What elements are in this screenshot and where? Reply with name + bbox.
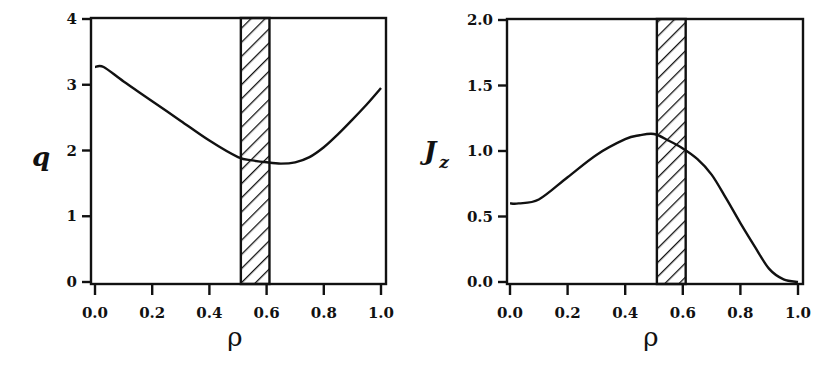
q-profile-panel: 012340.00.20.40.60.81.0ρq bbox=[32, 10, 394, 352]
y-axis-label: Jz bbox=[419, 136, 449, 172]
plot-frame bbox=[507, 19, 803, 284]
x-tick-label: 0.6 bbox=[670, 304, 696, 322]
y-tick-label: 0 bbox=[67, 273, 77, 291]
y-tick-label: 2.0 bbox=[467, 11, 493, 29]
hatched-band bbox=[657, 19, 686, 284]
x-tick-label: 0.0 bbox=[82, 304, 108, 322]
x-tick-label: 0.4 bbox=[612, 304, 638, 322]
profile-curve bbox=[95, 66, 381, 164]
y-axis-label: q bbox=[32, 142, 50, 172]
profile-curve bbox=[510, 134, 798, 282]
x-tick-label: 0.2 bbox=[139, 304, 165, 322]
x-tick-label: 0.0 bbox=[497, 304, 523, 322]
hatched-band bbox=[241, 18, 270, 284]
y-tick-label: 0.5 bbox=[467, 208, 493, 226]
y-tick-label: 1.0 bbox=[467, 142, 493, 160]
y-tick-label: 0.0 bbox=[467, 273, 493, 291]
y-tick-label: 3 bbox=[67, 76, 77, 94]
y-tick-label: 4 bbox=[67, 10, 77, 28]
x-tick-label: 0.8 bbox=[311, 304, 337, 322]
x-tick-label: 1.0 bbox=[785, 304, 811, 322]
x-tick-label: 0.8 bbox=[727, 304, 753, 322]
y-tick-label: 2 bbox=[67, 142, 77, 160]
x-tick-label: 0.2 bbox=[555, 304, 581, 322]
x-axis-label: ρ bbox=[643, 322, 658, 352]
x-tick-label: 0.6 bbox=[254, 304, 280, 322]
x-tick-label: 1.0 bbox=[368, 304, 394, 322]
plot-frame bbox=[91, 18, 386, 284]
x-axis-label: ρ bbox=[227, 322, 242, 352]
figure: 012340.00.20.40.60.81.0ρq 0.00.51.01.52.… bbox=[0, 0, 834, 368]
y-axis-label-subscript: z bbox=[438, 152, 449, 172]
x-tick-label: 0.4 bbox=[196, 304, 222, 322]
y-axis-label-main: q bbox=[32, 142, 50, 172]
jz-profile-panel: 0.00.51.01.52.00.00.20.40.60.81.0ρJz bbox=[419, 11, 811, 352]
y-tick-label: 1 bbox=[67, 207, 77, 225]
y-axis-label-main: J bbox=[419, 136, 438, 166]
y-tick-label: 1.5 bbox=[467, 77, 493, 95]
